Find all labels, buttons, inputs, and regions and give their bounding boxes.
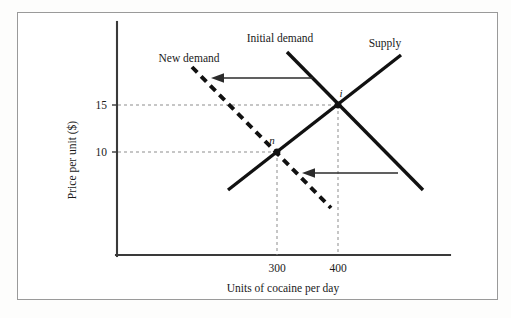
supply-curve-label: Supply xyxy=(369,37,402,50)
initial-demand-curve-label: Initial demand xyxy=(247,32,314,44)
lower-arrow-head-icon xyxy=(302,168,315,178)
new-demand-curve-label: New demand xyxy=(159,52,220,64)
initial-equilibrium-dot xyxy=(335,102,342,109)
x-tick-label-300: 300 xyxy=(268,262,286,274)
initial-equilibrium-label: i xyxy=(339,87,342,99)
y-tick-label-15: 15 xyxy=(96,99,108,111)
initial-demand-curve xyxy=(287,52,423,190)
figure-root: Supply Initial demand New demand i n 15 … xyxy=(0,0,511,318)
y-tick-label-10: 10 xyxy=(96,146,108,158)
upper-arrow-head-icon xyxy=(211,73,224,83)
new-equilibrium-dot xyxy=(274,149,281,156)
chart-curves xyxy=(192,52,423,208)
x-tick-label-400: 400 xyxy=(329,262,347,274)
lower-demand-shift-arrow xyxy=(302,168,398,178)
new-equilibrium-label: n xyxy=(269,134,275,146)
supply-demand-chart: Supply Initial demand New demand i n 15 … xyxy=(0,0,511,318)
x-axis-title: Units of cocaine per day xyxy=(227,282,340,295)
y-axis-title: Price per unit ($) xyxy=(66,121,79,199)
upper-demand-shift-arrow xyxy=(211,73,313,83)
new-demand-curve xyxy=(192,67,331,208)
